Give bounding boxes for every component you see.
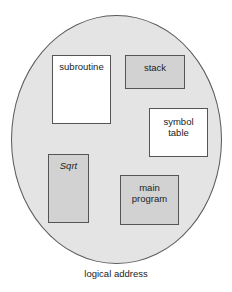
segment-sqrt-label: Sqrt (49, 160, 88, 171)
segment-stack-label: stack (126, 62, 184, 73)
segment-symbol-table-label-line1: symbol (150, 116, 207, 127)
segment-main-program: main program (120, 175, 179, 225)
segment-subroutine-label: subroutine (53, 61, 110, 72)
segment-main-program-label-line2: program (121, 193, 178, 204)
segment-symbol-table: symbol table (149, 108, 208, 157)
segment-stack: stack (125, 55, 185, 89)
diagram-caption: logical address (0, 268, 232, 279)
segment-symbol-table-label-line2: table (150, 127, 207, 138)
segment-main-program-label-line1: main (121, 182, 178, 193)
segment-subroutine: subroutine (52, 55, 111, 124)
segment-sqrt: Sqrt (48, 154, 89, 223)
